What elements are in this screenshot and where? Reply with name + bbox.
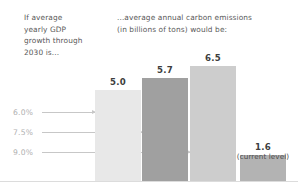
axis-label-gdp-7-5: 7.5% xyxy=(13,128,33,137)
bar-value-label-2: 5.7 xyxy=(142,65,188,75)
bar-note-label-4: (current level) xyxy=(224,152,298,161)
bar-value-label-4: 1.6 xyxy=(240,142,286,152)
bar-1 xyxy=(95,90,141,181)
bar-3 xyxy=(190,66,236,181)
bar-2 xyxy=(142,78,188,181)
axis-label-gdp-6: 6.0% xyxy=(13,108,33,117)
axis-label-gdp-9: 9.0% xyxy=(13,148,33,157)
caption-right: ...average annual carbon emissions (in b… xyxy=(117,12,292,35)
chart-baseline xyxy=(0,181,298,182)
chart-container: If average yearly GDP growth through 203… xyxy=(0,0,298,189)
caption-left: If average yearly GDP growth through 203… xyxy=(24,12,100,58)
pointer-line-6 xyxy=(42,112,95,113)
bar-value-label-3: 6.5 xyxy=(190,53,236,63)
bar-value-label-1: 5.0 xyxy=(95,77,141,87)
